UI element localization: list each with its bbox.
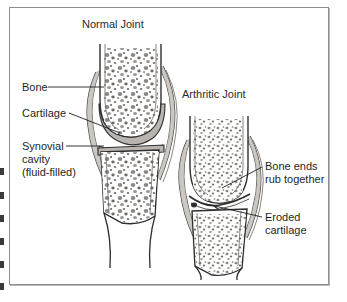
label-cartilage: Cartilage xyxy=(22,107,66,120)
scan-artifact-mark xyxy=(0,238,4,245)
label-eroded-cartilage: Eroded cartilage xyxy=(265,211,307,237)
label-bone: Bone xyxy=(22,81,48,94)
scan-artifact-mark xyxy=(0,215,4,222)
heading-arthritic-joint: Arthritic Joint xyxy=(182,88,246,100)
scan-artifact-mark xyxy=(0,261,4,268)
scan-artifact-mark xyxy=(0,283,4,290)
scan-artifact-mark xyxy=(0,192,4,199)
label-bone-ends-rub-together: Bone ends rub together xyxy=(265,160,324,186)
scan-artifact-mark xyxy=(0,168,4,175)
label-synovial-cavity: Synovial cavity (fluid-filled) xyxy=(22,140,76,179)
joint-comparison-figure: Normal Joint Arthritic Joint Bone Cartil… xyxy=(0,0,347,302)
heading-normal-joint: Normal Joint xyxy=(82,18,144,30)
